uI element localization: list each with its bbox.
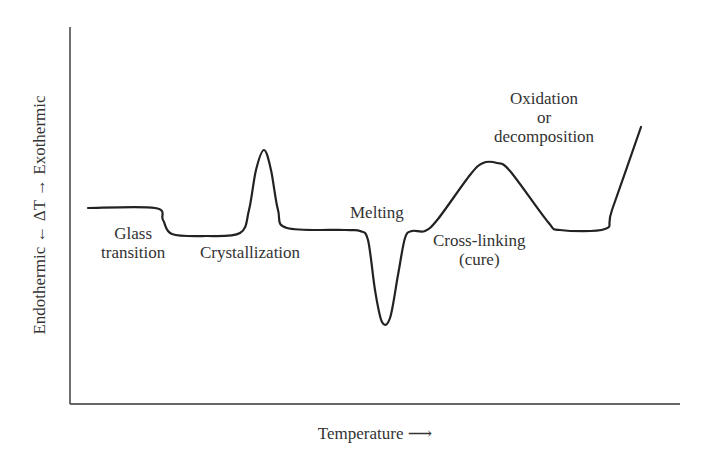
- x-axis-label: Temperature ⟶: [318, 423, 432, 444]
- annotation-glass-transition: Glass transition: [101, 224, 165, 262]
- annotation-line: decomposition: [494, 127, 594, 146]
- annotation-line: Cross-linking: [433, 231, 526, 250]
- annotation-oxidation: Oxidation or decomposition: [494, 89, 594, 146]
- annotation-line: Oxidation: [494, 89, 594, 108]
- annotation-melting: Melting: [350, 203, 404, 222]
- annotation-crystallization: Crystallization: [200, 243, 300, 262]
- annotation-line: Glass: [101, 224, 165, 243]
- y-axis-label: Endothermic ← ΔT → Exothermic: [30, 95, 50, 334]
- dsc-curve: [88, 127, 641, 325]
- annotation-line: or: [494, 108, 594, 127]
- annotation-line: transition: [101, 243, 165, 262]
- annotation-cross-linking: Cross-linking (cure): [433, 231, 526, 269]
- annotation-line: (cure): [433, 250, 526, 269]
